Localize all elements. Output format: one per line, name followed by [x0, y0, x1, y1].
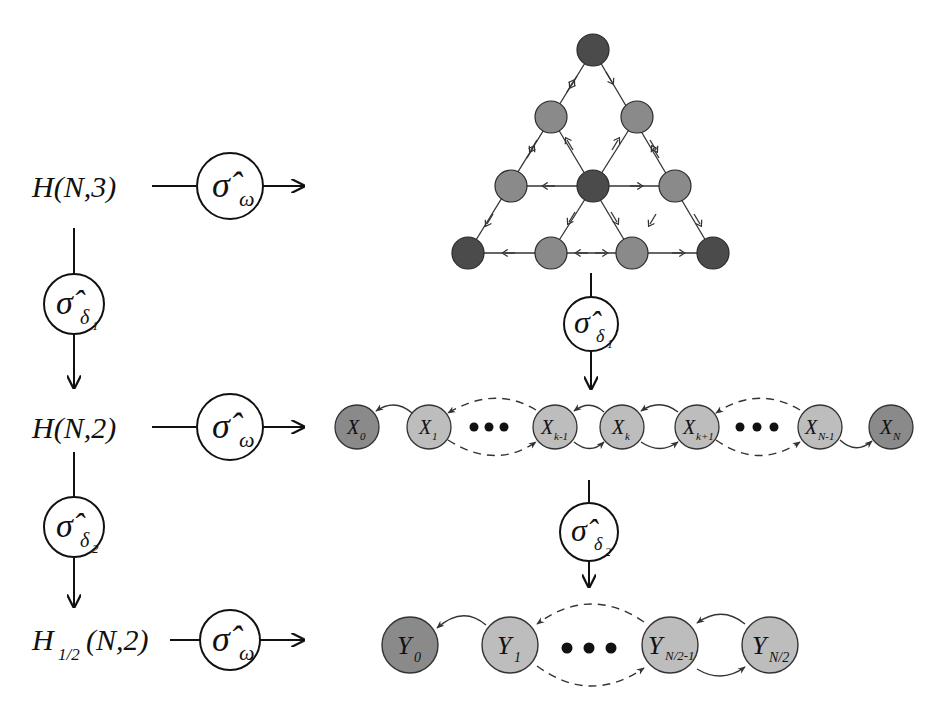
lattice-node	[535, 237, 567, 269]
right-vertical-op-2: σ̂ δ 2	[560, 480, 618, 587]
y-node-0: Y 0	[382, 617, 438, 673]
x-node-1: X 1	[407, 405, 451, 449]
x-node-label: X	[418, 416, 432, 438]
x-node-sub: k-1	[554, 430, 568, 442]
x-node-label: X	[346, 416, 360, 438]
lattice-node	[621, 101, 653, 133]
x-node-sub: N-1	[817, 430, 835, 442]
lattice-node-center	[577, 170, 609, 202]
x-node-sub: k+1	[696, 430, 714, 442]
row-h-half-n2: H 1/2 (N,2) σ̂ ω	[31, 610, 304, 670]
label-h-n2: H(N,2)	[31, 411, 116, 445]
lattice-node	[535, 101, 567, 133]
x-node-label: X	[879, 416, 893, 438]
x-node-n-1: X N-1	[798, 405, 842, 449]
x-ellipsis-2	[736, 423, 779, 432]
label-h-n3: H(N,3)	[31, 170, 116, 204]
delta-index-1: 1	[92, 318, 99, 333]
label-h-half-sub: 1/2	[58, 645, 80, 664]
y-node-label: Y	[752, 631, 769, 660]
label-h-half-main: H	[31, 623, 56, 656]
x-node-label: X	[804, 416, 818, 438]
x-chain-nodes: X 0 X 1 X k-1 X k X k+1	[335, 405, 913, 449]
y-node-n2: Y N/2	[742, 617, 798, 673]
triangle-nodes	[452, 34, 729, 269]
x-node-sub: N	[892, 430, 901, 442]
lattice-node	[659, 170, 691, 202]
x-node-n: X N	[869, 405, 913, 449]
y-node-1: Y 1	[482, 617, 538, 673]
delta-sub-2: δ	[80, 529, 90, 551]
y-node-label: Y	[397, 631, 414, 660]
omega-sub-2: ω	[239, 427, 255, 452]
y-node-n2-1: Y N/2-1	[642, 617, 698, 673]
delta-index-2: 2	[92, 541, 99, 556]
y-node-sub: N/2-1	[664, 648, 695, 663]
diagram-canvas: H(N,3) σ̂ ω σ̂ δ 1 H(N,2) σ̂ ω σ̂ δ 2 H …	[0, 0, 944, 714]
x-node-k: X k	[600, 405, 644, 449]
delta-sub-r2: δ	[594, 534, 603, 554]
y-chain-nodes: Y 0 Y 1 Y N/2-1 Y N/2	[382, 617, 798, 673]
lattice-node	[616, 237, 648, 269]
delta-index-r2: 2	[605, 545, 611, 559]
left-vertical-op-2: σ̂ δ 2	[44, 452, 104, 607]
x-node-label: X	[611, 416, 625, 438]
row-h-n3: H(N,3) σ̂ ω	[31, 153, 304, 219]
x-node-0: X 0	[335, 405, 379, 449]
triangle-lattice	[468, 50, 713, 253]
y-node-label: Y	[497, 631, 514, 660]
y-node-sub: 1	[514, 650, 521, 665]
x-node-k-1: X k-1	[533, 405, 577, 449]
omega-sub-3: ω	[239, 640, 255, 665]
lattice-node-bottom-right	[697, 237, 729, 269]
delta-sub-1: δ	[80, 306, 90, 328]
row-h-n2: H(N,2) σ̂ ω	[31, 394, 304, 460]
right-vertical-op-1: σ̂ δ 1	[564, 273, 618, 389]
x-node-label: X	[540, 416, 554, 438]
delta-index-r1: 1	[607, 337, 613, 351]
y-ellipsis	[562, 643, 617, 654]
y-node-sub: N/2	[768, 650, 789, 665]
x-node-label: X	[682, 416, 696, 438]
lattice-node-top	[577, 34, 609, 66]
x-node-sub: 0	[360, 430, 366, 442]
lattice-node	[495, 170, 527, 202]
x-node-k+1: X k+1	[675, 405, 719, 449]
label-h-half-rest: (N,2)	[86, 623, 149, 657]
x-node-sub: 1	[432, 430, 438, 442]
omega-sub-1: ω	[239, 186, 255, 211]
y-node-label: Y	[648, 631, 665, 660]
lattice-node-bottom-left	[452, 237, 484, 269]
delta-sub-r1: δ	[596, 326, 605, 346]
x-ellipsis-1	[470, 423, 509, 432]
left-vertical-op-1: σ̂ δ 1	[44, 228, 104, 388]
y-node-sub: 0	[414, 650, 421, 665]
